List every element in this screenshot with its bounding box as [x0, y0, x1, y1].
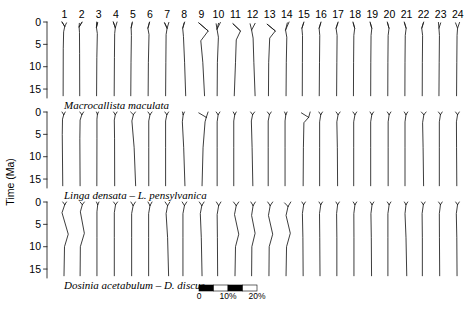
trace-fork-0 — [319, 202, 321, 205]
y-tick-label-2-3: 15 — [29, 173, 41, 185]
trace-stem — [79, 22, 82, 95]
trace-fork-1 — [423, 202, 425, 205]
trace-stem — [320, 115, 321, 186]
trace-3-14 — [285, 202, 291, 276]
trace-stem — [62, 22, 65, 96]
y-tick-label-1-0: 0 — [35, 16, 41, 28]
trace-fork-0 — [199, 23, 208, 31]
trace-stem — [336, 23, 338, 96]
trace-stem — [456, 23, 458, 96]
trace-2-21 — [404, 112, 408, 186]
y-tick-label-3-1: 5 — [35, 218, 41, 230]
panel-1: 051015 — [29, 16, 459, 98]
trace-fork-1 — [389, 202, 391, 205]
trace-stem — [405, 23, 407, 96]
trace-stem — [202, 117, 206, 185]
trace-fork-0 — [404, 22, 406, 28]
column-label-14: 14 — [281, 8, 293, 20]
column-label-5: 5 — [130, 8, 136, 20]
trace-fork-1 — [115, 22, 117, 28]
column-label-15: 15 — [298, 8, 310, 20]
trace-fork-1 — [440, 112, 442, 115]
trace-fork-1 — [389, 112, 391, 115]
scale-bar-label-2: 20% — [248, 291, 265, 301]
trace-fork-1 — [184, 202, 186, 206]
trace-fork-1 — [150, 112, 152, 115]
trace-fork-0 — [62, 22, 65, 26]
trace-stem — [183, 23, 186, 96]
panel-2: 051015 — [29, 106, 459, 188]
trace-fork-0 — [456, 112, 458, 115]
trace-stem — [149, 206, 150, 276]
trace-2-2 — [80, 112, 84, 186]
trace-fork-0 — [199, 113, 207, 117]
trace-fork-1 — [253, 202, 255, 206]
trace-3-24 — [456, 202, 460, 276]
y-tick-label-3-0: 0 — [35, 196, 41, 208]
y-tick-label-3-3: 15 — [29, 263, 41, 275]
trace-1-9 — [199, 23, 208, 96]
column-label-12: 12 — [247, 8, 259, 20]
trace-fork-1 — [372, 202, 374, 205]
trace-fork-0 — [251, 112, 253, 115]
trace-stem — [405, 205, 407, 276]
trace-fork-1 — [219, 202, 221, 206]
trace-fork-1 — [150, 202, 152, 206]
trace-stem — [371, 115, 372, 186]
y-tick-label-1-1: 5 — [35, 38, 41, 50]
trace-stem — [302, 205, 303, 276]
trace-stem — [234, 115, 235, 186]
trace-fork-1 — [288, 202, 291, 206]
trace-stem — [320, 205, 321, 276]
trace-stem — [456, 205, 457, 276]
trace-2-3 — [96, 112, 98, 186]
trace-fork-0 — [233, 24, 241, 31]
trace-2-9 — [199, 112, 208, 186]
y-tick-label-1-2: 10 — [29, 60, 41, 72]
trace-1-16 — [319, 22, 321, 96]
trace-stem — [131, 23, 132, 96]
trace-fork-1 — [321, 112, 323, 115]
trace-fork-0 — [131, 202, 133, 206]
trace-fork-0 — [62, 112, 64, 115]
trace-fork-1 — [116, 202, 118, 205]
trace-fork-1 — [168, 202, 170, 206]
trace-fork-0 — [370, 22, 372, 28]
trace-fork-1 — [424, 112, 426, 115]
trace-2-22 — [421, 112, 426, 186]
trace-fork-1 — [253, 112, 255, 115]
trace-stem — [217, 206, 219, 276]
y-axis-title: Time (Ma) — [4, 158, 16, 205]
column-label-16: 16 — [315, 8, 327, 20]
trace-stem — [148, 22, 150, 95]
trace-fork-1 — [321, 202, 323, 205]
trace-fork-0 — [114, 202, 116, 205]
trace-1-13 — [267, 24, 275, 96]
trace-2-5 — [131, 112, 136, 186]
trace-3-19 — [370, 202, 374, 276]
trace-fork-1 — [216, 24, 217, 29]
trace-fork-0 — [438, 22, 439, 28]
trace-fork-0 — [421, 202, 423, 205]
species-label-3: Dosinia acetabulum – D. discus — [63, 279, 205, 291]
trace-1-11 — [233, 24, 241, 96]
trace-1-6 — [148, 22, 150, 96]
trace-3-10 — [216, 202, 221, 276]
trace-fork-0 — [199, 202, 202, 206]
trace-2-15 — [301, 112, 310, 186]
column-label-6: 6 — [147, 8, 153, 20]
trace-fork-0 — [370, 202, 372, 205]
trace-stem — [439, 115, 440, 186]
trace-fork-1 — [65, 202, 67, 205]
trace-2-7 — [165, 112, 169, 186]
trace-2-23 — [438, 112, 442, 186]
trace-stem — [354, 115, 355, 186]
column-label-9: 9 — [198, 8, 204, 20]
trace-fork-0 — [370, 112, 372, 115]
trace-fork-1 — [235, 112, 237, 115]
trace-stem — [354, 205, 355, 276]
trace-fork-1 — [406, 112, 408, 115]
trace-fork-0 — [80, 202, 82, 205]
trace-3-11 — [234, 202, 239, 276]
trace-fork-1 — [115, 112, 117, 115]
